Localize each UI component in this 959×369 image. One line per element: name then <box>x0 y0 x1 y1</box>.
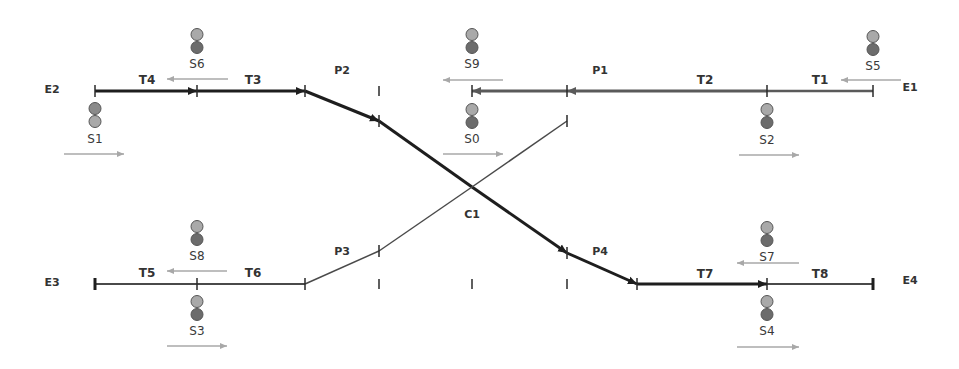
point-label-p1: P1 <box>592 65 608 76</box>
signal-lamp-upper-icon <box>761 221 774 234</box>
endpoint-label-e1: E1 <box>902 82 917 93</box>
signal-s3[interactable] <box>191 295 204 320</box>
crossing-label-c1: C1 <box>464 209 480 220</box>
point-p2-route[interactable] <box>305 91 472 187</box>
track-layout-canvas <box>0 0 959 369</box>
signal-lamp-upper-icon <box>191 220 204 233</box>
signal-lamp-upper-icon <box>466 28 479 41</box>
track-label-t4: T4 <box>139 74 156 86</box>
point-label-p2: P2 <box>334 65 350 76</box>
signal-label-s1: S1 <box>87 133 102 145</box>
signal-lamp-lower-icon <box>761 116 774 129</box>
track-label-t1: T1 <box>812 74 829 86</box>
signal-lamp-lower-icon <box>761 234 774 247</box>
track-label-t2: T2 <box>697 74 714 86</box>
point-p3-diverging[interactable] <box>305 187 472 284</box>
point-p4-route[interactable] <box>472 187 637 284</box>
point-label-p4: P4 <box>592 246 608 257</box>
signal-s2[interactable] <box>761 103 774 128</box>
endpoint-label-e3: E3 <box>44 277 59 288</box>
signal-lamp-upper-icon <box>466 103 479 116</box>
track-label-t6: T6 <box>245 267 262 279</box>
signal-s9[interactable] <box>466 28 479 53</box>
track-layout-diagram: S0 S1 S2 S3 S4 S5 S6 S7 S8 S9 E1 E2 E3 E… <box>0 0 959 369</box>
signal-label-s2: S2 <box>759 134 774 146</box>
point-label-p3: P3 <box>334 246 350 257</box>
signal-s6[interactable] <box>191 28 204 53</box>
signal-label-s8: S8 <box>189 250 204 262</box>
endpoint-label-e2: E2 <box>44 84 59 95</box>
track-label-t8: T8 <box>812 268 829 280</box>
section-boundary-ticks <box>95 85 873 290</box>
signal-label-s3: S3 <box>189 325 204 337</box>
signal-s8[interactable] <box>191 220 204 245</box>
signal-lamp-upper-icon <box>191 28 204 41</box>
signal-label-s7: S7 <box>759 251 774 263</box>
signal-lamp-lower-icon <box>867 43 880 56</box>
signal-lamp-lower-icon <box>191 308 204 321</box>
signal-lamp-lower-icon <box>761 308 774 321</box>
endpoint-label-e4: E4 <box>902 275 917 286</box>
signal-label-s5: S5 <box>865 60 880 72</box>
signal-lamp-upper-icon <box>761 295 774 308</box>
signal-s0[interactable] <box>466 103 479 128</box>
signal-s4[interactable] <box>761 295 774 320</box>
signal-lamp-lower-icon <box>191 41 204 54</box>
signal-label-s6: S6 <box>189 58 204 70</box>
signal-lamp-lower-icon <box>89 115 102 128</box>
signal-lamp-lower-icon <box>191 233 204 246</box>
signal-label-s0: S0 <box>464 133 479 145</box>
track-label-t3: T3 <box>245 74 262 86</box>
signal-lamp-upper-icon <box>761 103 774 116</box>
signal-s5[interactable] <box>867 30 880 55</box>
signal-s7[interactable] <box>761 221 774 246</box>
signal-label-s9: S9 <box>464 58 479 70</box>
signal-label-s4: S4 <box>759 325 774 337</box>
track-label-t7: T7 <box>697 268 714 280</box>
signal-lamp-lower-icon <box>466 41 479 54</box>
signal-s1[interactable] <box>89 102 102 127</box>
signal-lamp-upper-icon <box>89 102 102 115</box>
track-label-t5: T5 <box>139 267 156 279</box>
signal-lamp-upper-icon <box>191 295 204 308</box>
signal-lamp-upper-icon <box>867 30 880 43</box>
signal-lamp-lower-icon <box>466 116 479 129</box>
